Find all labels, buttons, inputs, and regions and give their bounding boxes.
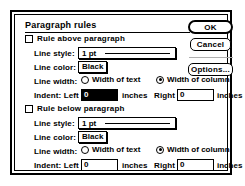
indent-left-field-above[interactable]: 0	[81, 89, 118, 101]
screen: Paragraph rules OK Cancel Options... Rul…	[0, 0, 245, 186]
line-width-label-above: Line width:	[34, 77, 77, 86]
dialog-title: Paragraph rules	[25, 20, 97, 30]
indent-right-unit-below: inches	[217, 161, 242, 170]
indent-left-label-below: Indent: Left	[34, 161, 79, 170]
radio-icon-width-text-below[interactable]	[81, 146, 89, 154]
width-of-text-label-below: Width of text	[92, 145, 140, 154]
rule-above-checkbox[interactable]	[25, 35, 33, 43]
line-width-label-below: Line width:	[34, 147, 77, 156]
line-color-button-below[interactable]: Black	[78, 131, 107, 143]
width-of-text-label-above: Width of text	[92, 75, 140, 84]
title-divider	[25, 32, 190, 33]
line-style-sample-below	[105, 123, 170, 124]
indent-left-unit-below: inches	[122, 161, 147, 170]
indent-left-label-above: Indent: Left	[34, 91, 79, 100]
rule-above-checkbox-row[interactable]: Rule above paragraph	[25, 34, 125, 43]
radio-icon-width-column-below[interactable]	[156, 146, 164, 154]
cancel-button[interactable]: Cancel	[190, 38, 231, 51]
rule-below-label: Rule below paragraph	[37, 104, 125, 113]
line-style-popup-below[interactable]: 1 pt	[78, 117, 176, 129]
indent-right-field-below[interactable]: 0	[177, 159, 214, 171]
width-of-column-label-below: Width of column	[167, 145, 230, 154]
paragraph-rules-dialog: Paragraph rules OK Cancel Options... Rul…	[10, 10, 232, 175]
width-of-text-radio-above[interactable]: Width of text	[81, 75, 140, 84]
indent-left-unit-above: inches	[122, 91, 147, 100]
indent-right-label-above: Right	[154, 91, 175, 100]
rule-above-label: Rule above paragraph	[37, 34, 125, 43]
line-style-value-above: 1 pt	[82, 49, 96, 58]
rule-below-checkbox-row[interactable]: Rule below paragraph	[25, 104, 125, 113]
width-of-column-radio-above[interactable]: Width of column	[156, 75, 230, 84]
indent-left-field-below[interactable]: 0	[81, 159, 118, 171]
line-style-label-above: Line style:	[34, 49, 75, 58]
ok-button[interactable]: OK	[188, 20, 233, 34]
line-style-label-below: Line style:	[34, 119, 75, 128]
radio-icon-width-text-above[interactable]	[81, 76, 89, 84]
indent-right-unit-above: inches	[217, 91, 242, 100]
width-of-text-radio-below[interactable]: Width of text	[81, 145, 140, 154]
width-of-column-label-above: Width of column	[167, 75, 230, 84]
indent-right-label-below: Right	[154, 161, 175, 170]
line-color-label-above: Line color:	[34, 63, 76, 72]
dialog-content: Paragraph rules OK Cancel Options... Rul…	[15, 15, 227, 170]
rule-below-checkbox[interactable]	[25, 105, 33, 113]
width-of-column-radio-below[interactable]: Width of column	[156, 145, 230, 154]
radio-icon-width-column-above[interactable]	[156, 76, 164, 84]
line-style-popup-above[interactable]: 1 pt	[78, 47, 176, 59]
line-color-label-below: Line color:	[34, 133, 76, 142]
line-style-value-below: 1 pt	[82, 119, 96, 128]
indent-right-field-above[interactable]: 0	[177, 89, 214, 101]
line-style-sample-above	[105, 53, 170, 54]
line-color-button-above[interactable]: Black	[78, 61, 107, 73]
button-group-divider	[189, 57, 233, 58]
dialog-inner-frame: Paragraph rules OK Cancel Options... Rul…	[14, 14, 228, 171]
